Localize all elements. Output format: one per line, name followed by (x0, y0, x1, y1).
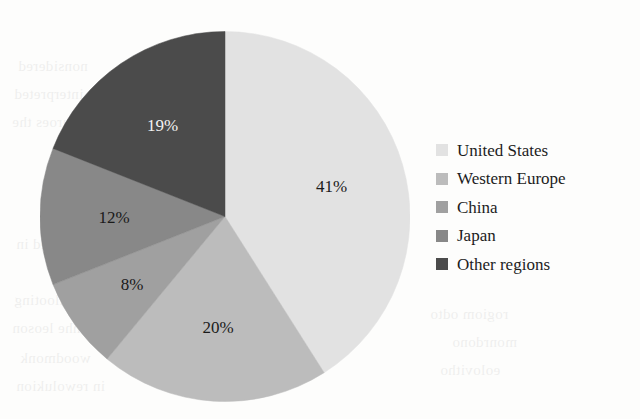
chart-legend: United StatesWestern EuropeChinaJapanOth… (436, 136, 626, 279)
legend-item[interactable]: China (436, 193, 626, 222)
legend-item-label: Japan (457, 227, 496, 244)
legend-color-swatch-icon (436, 173, 448, 185)
legend-item-label: China (457, 199, 498, 216)
legend-item[interactable]: Japan (436, 222, 626, 251)
legend-color-swatch-icon (436, 230, 448, 242)
legend-item[interactable]: Western Europe (436, 165, 626, 194)
pie-slice-value-label: 8% (121, 275, 144, 294)
bleed-text: eolovitho (440, 362, 500, 379)
legend-color-swatch-icon (436, 258, 448, 270)
pie-slice-value-label: 12% (98, 208, 129, 227)
pie-chart-svg: 41%20%8%12%19% (40, 31, 410, 402)
pie-slice-value-label: 41% (316, 177, 347, 196)
pie-chart-figure: nonsideredinterpretedseouroes thereoorde… (0, 0, 640, 419)
legend-item-label: Western Europe (457, 170, 566, 187)
legend-color-swatch-icon (436, 144, 448, 156)
bleed-text: rogiom odto (430, 306, 508, 323)
legend-item-label: Other regions (457, 256, 550, 273)
pie-slice-value-label: 19% (147, 116, 178, 135)
pie-slice-value-label: 20% (202, 318, 233, 337)
legend-color-swatch-icon (436, 201, 448, 213)
legend-item[interactable]: United States (436, 136, 626, 165)
pie-chart-plot-area: 41%20%8%12%19% (40, 31, 410, 402)
pie-slice-group (40, 32, 410, 402)
legend-item[interactable]: Other regions (436, 250, 626, 279)
bleed-text: monrdono (452, 334, 517, 351)
legend-item-label: United States (457, 142, 548, 159)
